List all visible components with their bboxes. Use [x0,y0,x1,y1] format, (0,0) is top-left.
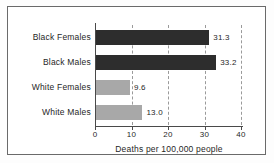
bar-white-females [95,80,130,95]
x-axis-title: Deaths per 100,000 people [95,144,243,154]
bar-value-label: 31.3 [213,33,229,42]
bar-value-label: 9.6 [134,83,146,92]
chart-frame: Black Females Black Males White Females … [7,6,266,155]
category-label: White Females [32,82,91,92]
bar-black-females [95,30,209,45]
category-label: Black Males [43,57,91,67]
tick-label: 30 [200,130,209,139]
bar-value-label: 33.2 [220,58,236,67]
category-label: Black Females [33,32,91,42]
bar-white-males [95,105,142,120]
x-axis-line [95,126,243,127]
plot-area: 31.3 33.2 9.6 13.0 [95,25,241,125]
bar-black-males [95,55,216,70]
category-axis-labels: Black Females Black Males White Females … [20,25,91,125]
gridline-40 [241,25,242,125]
y-axis-line [95,23,96,127]
tick-label: 40 [236,130,245,139]
tick-label: 0 [93,130,98,139]
tick-label: 20 [163,130,172,139]
bar-value-label: 13.0 [146,108,162,117]
tick-label: 10 [127,130,136,139]
chart-figure: Black Females Black Males White Females … [0,0,274,163]
category-label: White Males [42,107,91,117]
